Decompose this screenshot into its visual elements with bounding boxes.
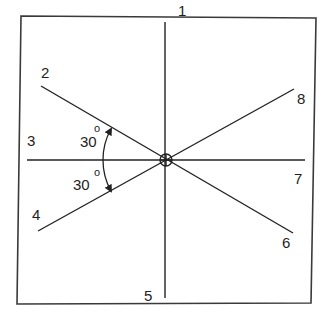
center-crosshair-icon <box>160 154 172 166</box>
angle-value-lower: 30 <box>73 177 90 192</box>
direction-label-4: 4 <box>32 207 40 222</box>
angle-arc-upper <box>103 129 111 160</box>
direction-label-3: 3 <box>27 133 35 148</box>
direction-label-8: 8 <box>297 91 305 106</box>
angle-value-upper: 30 <box>80 134 97 149</box>
direction-label-5: 5 <box>144 288 152 303</box>
angle-arc-lower <box>103 160 111 191</box>
direction-diagram: 1 2 3 4 5 6 7 8 30 o 30 o <box>0 0 328 322</box>
direction-label-1: 1 <box>178 3 186 18</box>
degree-symbol-lower: o <box>94 167 100 178</box>
degree-symbol-upper: o <box>94 123 100 134</box>
direction-label-7: 7 <box>294 171 302 186</box>
direction-label-6: 6 <box>282 235 290 250</box>
diagram-canvas <box>0 0 328 322</box>
direction-label-2: 2 <box>41 65 49 80</box>
